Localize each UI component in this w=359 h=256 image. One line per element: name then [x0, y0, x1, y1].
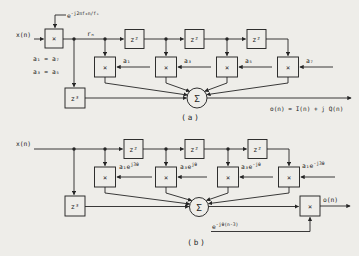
coeff-label-b4: a₁e-j3θ: [302, 161, 325, 169]
output-label-b: o(n): [323, 196, 338, 203]
coeff-label-b3: a₃e-jθ: [241, 162, 261, 170]
block-diagram-canvas: x(n) e-j2πf₀n/fₛ × rₙ z² z² z² × ×: [0, 0, 359, 256]
caption-a: (a): [181, 113, 201, 122]
coeff-multiplier-symbol-a1: ×: [103, 64, 107, 72]
coeff-identity-2: a₃ = a₅: [33, 68, 60, 75]
input-signal-label-b: x(n): [16, 140, 31, 147]
sum-feed-b3: [207, 187, 228, 200]
main-line-seg4-b: [267, 149, 289, 166]
coeff-multiplier-symbol-b3: ×: [226, 174, 230, 182]
coeff-label-b1: a₁ej3θ: [119, 162, 139, 170]
sum-symbol-b: Σ: [196, 202, 202, 213]
carrier-feed-line-a: [55, 15, 66, 28]
delay-z3-label-a: z³: [71, 95, 79, 103]
coeff-multiplier-symbol-b4: ×: [287, 174, 291, 182]
sum-feed-a3: [205, 77, 227, 91]
coeff-multiplier-symbol-a2: ×: [164, 64, 168, 72]
diagram-b: x(n) z² z² z² × × × × a₁ej3θ a₃ejθ: [16, 140, 350, 248]
post-factor-label-b: e-jθ(n-3): [212, 222, 238, 230]
caption-b: (b): [187, 238, 207, 247]
coeff-label-b2: a₃ejθ: [180, 162, 197, 170]
sum-symbol-a: Σ: [194, 93, 200, 104]
coeff-multiplier-symbol-a4: ×: [286, 64, 290, 72]
output-label-a: o(n) = I(n) + j Q(n): [270, 105, 343, 113]
delay-z2-label-a1: z²: [130, 36, 138, 44]
input-signal-label-a: x(n): [16, 31, 31, 38]
delay-z2-label-a2: z²: [190, 36, 198, 44]
sum-feed-b2: [166, 187, 192, 201]
coeff-identity-1: a₁ = a₇: [33, 55, 60, 62]
diagram-a: x(n) e-j2πf₀n/fₛ × rₙ z² z² z² × ×: [16, 11, 351, 122]
carrier-label-a: e-j2πf₀n/fₛ: [67, 11, 99, 19]
delay-z2-label-b1: z²: [129, 146, 137, 154]
coeff-label-a1: a₁: [123, 57, 131, 64]
delay-z2-label-b2: z²: [190, 146, 198, 154]
figure-quadrature-sampling-diagram: x(n) e-j2πf₀n/fₛ × rₙ z² z² z² × ×: [0, 0, 359, 256]
coeff-multiplier-symbol-b1: ×: [103, 174, 107, 182]
coeff-label-a4: a₇: [306, 57, 314, 64]
output-multiplier-symbol-b: ×: [308, 203, 312, 211]
delay-z2-label-a3: z²: [252, 36, 260, 44]
delay-z2-label-b3: z²: [253, 146, 261, 154]
coeff-label-a3: a₅: [245, 57, 253, 64]
delay-z3-label-b: z³: [71, 203, 79, 211]
coeff-multiplier-symbol-a3: ×: [225, 64, 229, 72]
sum-feed-a2: [166, 77, 190, 91]
coeff-label-a2: a₃: [184, 57, 192, 64]
signal-name-label-a: rₙ: [87, 30, 95, 37]
coeff-multiplier-symbol-b2: ×: [164, 174, 168, 182]
main-line-seg4-a: [266, 39, 288, 56]
input-multiplier-symbol-a: ×: [52, 35, 56, 43]
sum-feed-b1: [105, 187, 190, 204]
